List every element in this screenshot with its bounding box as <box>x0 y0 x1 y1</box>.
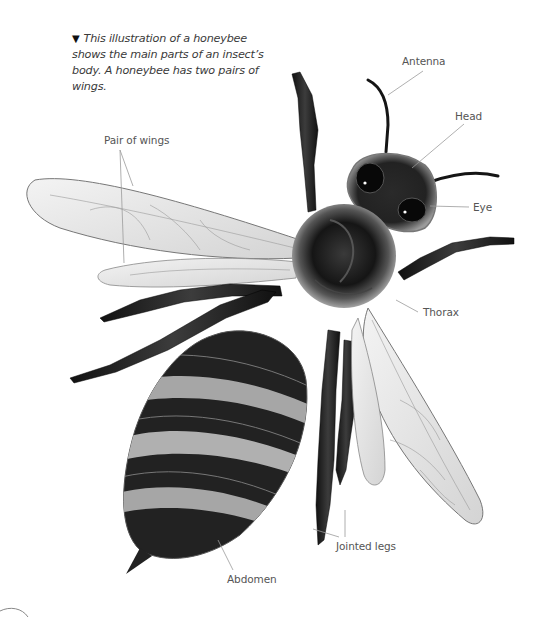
label-antenna: Antenna <box>402 55 445 67</box>
label-pair-of-wings: Pair of wings <box>104 134 169 146</box>
label-thorax: Thorax <box>423 306 459 318</box>
label-jointed-legs: Jointed legs <box>336 540 396 552</box>
corner-arc-decoration <box>0 608 28 617</box>
thorax-shape <box>292 204 396 308</box>
label-abdomen: Abdomen <box>227 573 277 585</box>
label-head: Head <box>455 110 482 122</box>
honeybee-illustration <box>0 0 541 617</box>
abdomen-shape <box>110 331 320 574</box>
label-eye: Eye <box>473 201 492 213</box>
right-wings <box>352 308 483 524</box>
left-wings <box>27 179 300 287</box>
